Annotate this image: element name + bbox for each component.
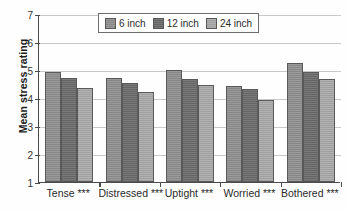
y-tick-mark xyxy=(35,15,40,16)
bar-6-inch xyxy=(45,72,61,182)
bar-group xyxy=(99,78,159,182)
bar-group xyxy=(160,70,220,182)
legend-item: 12 inch xyxy=(153,18,199,29)
bar-12-inch xyxy=(182,79,198,182)
y-tick-mark xyxy=(35,183,40,184)
bar-group xyxy=(281,63,341,182)
bar-24-inch xyxy=(77,88,93,182)
bar-6-inch xyxy=(226,86,242,182)
chart-legend: 6 inch12 inch24 inch xyxy=(98,13,259,33)
x-axis-label: Worried *** xyxy=(219,187,279,199)
y-tick-mark xyxy=(35,43,40,44)
legend-swatch-icon xyxy=(153,18,164,29)
bar-group xyxy=(220,86,280,182)
bar-6-inch xyxy=(287,63,303,182)
bar-24-inch xyxy=(198,85,214,182)
legend-item: 6 inch xyxy=(105,18,146,29)
legend-label: 12 inch xyxy=(167,18,199,29)
bar-24-inch xyxy=(258,100,274,182)
x-tick-mark xyxy=(341,182,342,187)
y-tick-label: 4 xyxy=(27,94,33,105)
x-axis-label: Distressed *** xyxy=(98,187,158,199)
y-gridline xyxy=(39,43,341,44)
bar-12-inch xyxy=(242,89,258,182)
bar-12-inch xyxy=(303,72,319,182)
legend-label: 24 inch xyxy=(220,18,252,29)
bar-group xyxy=(39,72,99,182)
y-tick-label: 6 xyxy=(27,38,33,49)
x-axis-label: Uptight *** xyxy=(159,187,219,199)
legend-swatch-icon xyxy=(206,18,217,29)
legend-label: 6 inch xyxy=(119,18,146,29)
y-tick-label: 5 xyxy=(27,66,33,77)
bar-6-inch xyxy=(106,78,122,182)
y-tick-label: 2 xyxy=(27,150,33,161)
x-axis-label: Bothered *** xyxy=(280,187,340,199)
plot-area: 1234567 xyxy=(38,15,340,183)
y-tick-label: 7 xyxy=(27,10,33,21)
bar-6-inch xyxy=(166,70,182,182)
legend-swatch-icon xyxy=(105,18,116,29)
bar-24-inch xyxy=(319,79,335,182)
legend-item: 24 inch xyxy=(206,18,252,29)
bar-24-inch xyxy=(138,92,154,182)
y-tick-label: 1 xyxy=(27,178,33,189)
bar-chart-figure: Mean stress rating 1234567 6 inch12 inch… xyxy=(0,0,347,211)
bar-12-inch xyxy=(122,83,138,182)
y-tick-label: 3 xyxy=(27,122,33,133)
x-axis-label: Tense *** xyxy=(38,187,98,199)
bar-12-inch xyxy=(61,78,77,182)
